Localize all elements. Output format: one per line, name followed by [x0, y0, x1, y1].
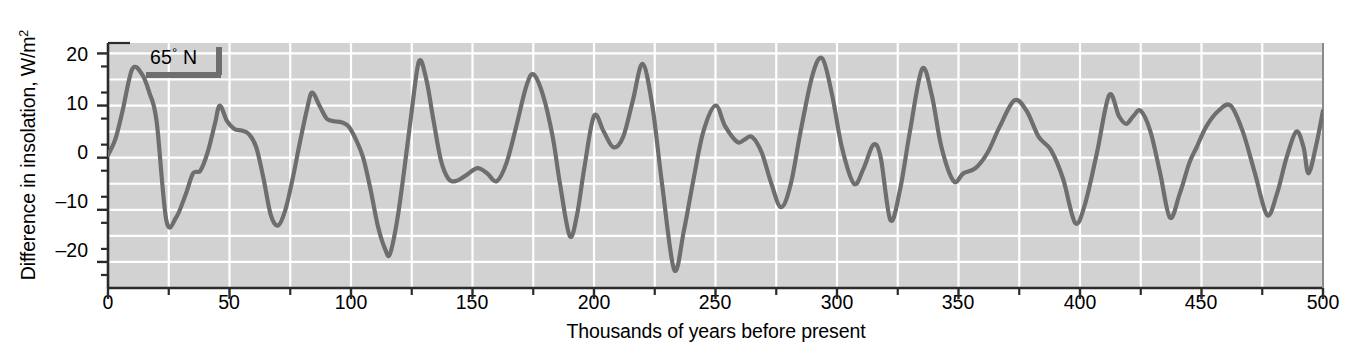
series-annotation-label: 65° N: [150, 48, 197, 68]
series-annotation-suffix: N: [178, 46, 198, 68]
plot-area: [0, 0, 1370, 361]
insolation-chart-figure: Difference in insolation, W/m2 20 10 0 –…: [0, 0, 1370, 361]
series-annotation-value: 65: [150, 46, 172, 68]
gridlines: [108, 43, 1323, 288]
